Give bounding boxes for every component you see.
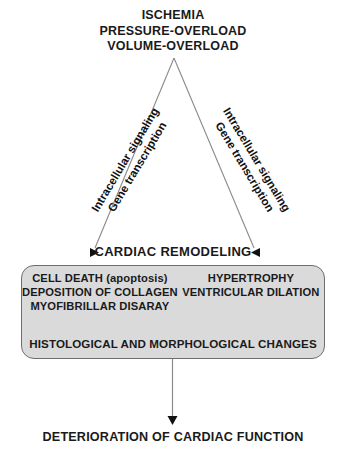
box-left-row-1: CELL DEATH (apoptosis) [22, 271, 178, 285]
cardiac-remodeling-title: CARDIAC REMODELING [0, 244, 346, 259]
box-summary-line: HISTOLOGICAL AND MORPHOLOGICAL CHANGES [22, 337, 324, 350]
connector-layer [0, 0, 346, 458]
outcome-arrow-head [168, 416, 178, 425]
box-column-right: HYPERTROPHY VENTRICULAR DILATION [178, 271, 324, 313]
box-column-left: CELL DEATH (apoptosis) DEPOSITION OF COL… [22, 271, 178, 313]
diagram-canvas: ISCHEMIA PRESSURE-OVERLOAD VOLUME-OVERLO… [0, 0, 346, 458]
outcome-caption: DETERIORATION OF CARDIAC FUNCTION [0, 430, 346, 444]
box-right-row-1: HYPERTROPHY [178, 271, 324, 285]
remodeling-box: CELL DEATH (apoptosis) DEPOSITION OF COL… [21, 265, 325, 359]
box-columns: CELL DEATH (apoptosis) DEPOSITION OF COL… [22, 271, 324, 313]
box-left-row-2: DEPOSITION OF COLLAGEN [22, 285, 178, 299]
box-left-row-3: MYOFIBRILLAR DISARAY [22, 299, 178, 313]
box-right-row-2: VENTRICULAR DILATION [178, 285, 324, 299]
